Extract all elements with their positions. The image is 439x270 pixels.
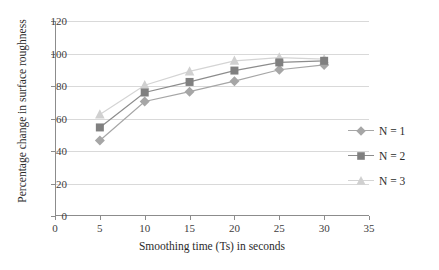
data-point-marker [320, 57, 328, 65]
x-tick [190, 216, 191, 220]
data-point-marker [229, 76, 239, 86]
legend-item-1[interactable]: N = 1 [348, 118, 438, 143]
x-tick-label: 5 [85, 222, 115, 234]
data-point-marker [230, 67, 238, 75]
y-axis-title: Percentage change in surface roughness [16, 11, 28, 211]
legend-item-3[interactable]: N = 3 [348, 168, 438, 193]
data-point-marker [275, 58, 283, 66]
legend-item-2[interactable]: N = 2 [348, 143, 438, 168]
data-point-marker [96, 123, 104, 131]
x-tick [234, 216, 235, 220]
x-tick [279, 216, 280, 220]
legend-label: N = 2 [379, 150, 405, 162]
x-tick [324, 216, 325, 220]
series-line [100, 61, 324, 128]
y-tick-label: 80 [37, 80, 67, 92]
line-chart: 020406080100120 05101520253035 Smoothing… [0, 0, 439, 270]
series-1 [95, 60, 329, 146]
triangle-marker-icon [348, 174, 374, 188]
y-tick-label: 60 [37, 113, 67, 125]
x-tick [145, 216, 146, 220]
x-axis-title: Smoothing time (Ts) in seconds [55, 240, 369, 252]
y-tick-label: 40 [37, 145, 67, 157]
plot-area [55, 21, 369, 216]
y-tick-label: 100 [37, 48, 67, 60]
x-tick-label: 30 [309, 222, 339, 234]
x-tick-label: 0 [40, 222, 70, 234]
legend: N = 1N = 2N = 3 [348, 118, 438, 193]
data-point-marker [185, 87, 195, 97]
x-tick-label: 15 [175, 222, 205, 234]
diamond-marker-icon [348, 124, 374, 138]
data-point-marker [141, 89, 149, 97]
x-tick [100, 216, 101, 220]
data-point-marker [95, 109, 105, 118]
square-marker-icon [348, 149, 374, 163]
x-tick-label: 20 [219, 222, 249, 234]
series-layer [55, 21, 369, 216]
y-tick-label: 0 [37, 210, 67, 222]
legend-label: N = 1 [379, 125, 405, 137]
x-tick-label: 25 [264, 222, 294, 234]
y-tick-label: 20 [37, 178, 67, 190]
x-tick-label: 10 [130, 222, 160, 234]
x-tick-label: 35 [354, 222, 384, 234]
y-tick-label: 120 [37, 15, 67, 27]
data-point-marker [186, 78, 194, 86]
x-tick [369, 216, 370, 220]
legend-label: N = 3 [379, 175, 405, 187]
